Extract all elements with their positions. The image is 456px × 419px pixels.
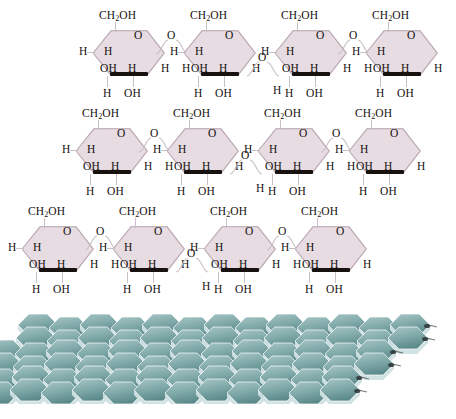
label-ch2oh: CH2OH bbox=[281, 10, 318, 23]
label-right-hydrogen: H bbox=[417, 161, 425, 173]
bond-bottom-h bbox=[127, 272, 128, 283]
label-upper-inner-hydrogen: H bbox=[306, 242, 314, 254]
bond-bottom-h bbox=[198, 76, 199, 87]
label-hydroxyl-c2: OH bbox=[191, 63, 208, 75]
label-left-hydrogen: H bbox=[261, 46, 269, 58]
label-lower-inner-hydrogen: H bbox=[202, 161, 210, 173]
label-left-hydrogen: H bbox=[170, 46, 178, 58]
bond-left-h bbox=[343, 150, 351, 151]
bond-left-h bbox=[198, 248, 206, 249]
label-upper-inner-hydrogen: H bbox=[215, 242, 223, 254]
glucose-ring: CH2OHOHHOHHHOHH bbox=[341, 106, 437, 206]
clipped-caption-strip bbox=[118, 408, 342, 419]
label-bottom-hydrogen: H bbox=[194, 88, 202, 100]
label-bottom-hydroxyl: OH bbox=[124, 88, 141, 100]
label-left-hydrogen: H bbox=[8, 242, 16, 254]
label-ch2oh: CH2OH bbox=[372, 10, 409, 23]
glucose-ring: CH2OHOHHOHHHOHH bbox=[250, 106, 346, 206]
label-ch2oh: CH2OH bbox=[99, 10, 136, 23]
label-ch2oh: CH2OH bbox=[28, 206, 65, 219]
label-glycosidic-oxygen: O bbox=[349, 30, 357, 42]
bond-bottom-h bbox=[363, 174, 364, 185]
label-upper-inner-hydrogen: H bbox=[87, 144, 95, 156]
label-left-hydrogen: H bbox=[153, 144, 161, 156]
cellulose-microfibril bbox=[0, 308, 456, 404]
label-hydroxyl-c2: OH bbox=[373, 63, 390, 75]
label-upper-inner-hydrogen: H bbox=[124, 242, 132, 254]
label-bottom-hydroxyl: OH bbox=[215, 88, 232, 100]
bond-ch2oh bbox=[371, 120, 372, 130]
label-bottom-hydroxyl: OH bbox=[397, 88, 414, 100]
label-bottom-hydroxyl: OH bbox=[235, 284, 252, 296]
label-ring-oxygen: O bbox=[63, 226, 71, 238]
label-ring-oxygen: O bbox=[299, 128, 307, 140]
label-ring-oxygen: O bbox=[154, 226, 162, 238]
label-upper-inner-hydrogen: H bbox=[33, 242, 41, 254]
label-ring-oxygen: O bbox=[245, 226, 253, 238]
bond-bottom-oh bbox=[116, 174, 117, 185]
bond-bottom-oh bbox=[315, 76, 316, 87]
bond-bottom-h bbox=[380, 76, 381, 87]
label-ring-oxygen: O bbox=[316, 30, 324, 42]
label-lower-inner-hydrogen: H bbox=[111, 161, 119, 173]
bond-bottom-oh bbox=[133, 76, 134, 87]
label-ch2oh: CH2OH bbox=[82, 108, 119, 121]
label-left-hydrogen: H bbox=[79, 46, 87, 58]
glucose-chain-row: CH2OHOHHOHHHOHHOHCH2OHOHHOHHHOHHOHCH2OHO… bbox=[14, 204, 418, 304]
label-bottom-hydrogen: H bbox=[268, 186, 276, 198]
label-bottom-hydroxyl: OH bbox=[380, 186, 397, 198]
bond-bottom-oh bbox=[244, 272, 245, 283]
label-lower-inner-hydrogen: H bbox=[384, 161, 392, 173]
clipped-caption-ink bbox=[118, 408, 342, 419]
label-right-hydrogen: H bbox=[144, 161, 152, 173]
bond-bottom-h bbox=[289, 76, 290, 87]
bond-left-h bbox=[107, 248, 115, 249]
glucose-ring: CH2OHOHHOHHHOHH bbox=[196, 204, 292, 304]
label-glycosidic-oxygen: O bbox=[150, 128, 158, 140]
label-bottom-hydrogen: H bbox=[214, 284, 222, 296]
bond-bottom-oh bbox=[224, 76, 225, 87]
label-glycosidic-oxygen: O bbox=[96, 226, 104, 238]
bond-ch2oh bbox=[226, 218, 227, 228]
bond-left-h bbox=[360, 52, 368, 53]
label-bottom-hydroxyl: OH bbox=[289, 186, 306, 198]
bond-bottom-oh bbox=[335, 272, 336, 283]
bond-ch2oh bbox=[206, 22, 207, 32]
bond-bottom-oh bbox=[153, 272, 154, 283]
label-ch2oh: CH2OH bbox=[119, 206, 156, 219]
label-ch2oh: CH2OH bbox=[173, 108, 210, 121]
bond-ch2oh bbox=[98, 120, 99, 130]
label-glycosidic-oxygen: O bbox=[167, 30, 175, 42]
bond-bottom-oh bbox=[62, 272, 63, 283]
label-bottom-hydroxyl: OH bbox=[107, 186, 124, 198]
label-hydroxyl-c2: OH bbox=[83, 161, 100, 173]
glucose-ring: CH2OHOHHOHHHOHH bbox=[85, 8, 181, 108]
label-upper-inner-hydrogen: H bbox=[286, 46, 294, 58]
label-left-hydrogen: H bbox=[352, 46, 360, 58]
bond-bottom-h bbox=[107, 76, 108, 87]
glucose-ring: CH2OHOHHOHHHOHH bbox=[358, 8, 454, 108]
label-ch2oh: CH2OH bbox=[190, 10, 227, 23]
label-hydroxyl-c2: OH bbox=[174, 161, 191, 173]
bond-bottom-oh bbox=[389, 174, 390, 185]
bond-ch2oh bbox=[388, 22, 389, 32]
glucose-chain-row: CH2OHOHHOHHHOHHOHCH2OHOHHOHHHOHHOHCH2OHO… bbox=[68, 106, 456, 206]
label-bottom-hydrogen: H bbox=[305, 284, 313, 296]
label-ch2oh: CH2OH bbox=[264, 108, 301, 121]
label-bottom-hydroxyl: OH bbox=[144, 284, 161, 296]
label-bottom-hydroxyl: OH bbox=[198, 186, 215, 198]
label-lower-inner-hydrogen: H bbox=[148, 259, 156, 271]
label-right-hydrogen: H bbox=[90, 259, 98, 271]
glucose-ring: CH2OHOHHOHHHOHH bbox=[14, 204, 110, 304]
bond-bottom-h bbox=[309, 272, 310, 283]
label-ch2oh: CH2OH bbox=[301, 206, 338, 219]
label-bottom-hydrogen: H bbox=[376, 88, 384, 100]
label-ring-oxygen: O bbox=[134, 30, 142, 42]
label-left-hydrogen: H bbox=[335, 144, 343, 156]
label-glycosidic-oxygen: O bbox=[332, 128, 340, 140]
label-lower-inner-hydrogen: H bbox=[330, 259, 338, 271]
label-bottom-hydrogen: H bbox=[86, 186, 94, 198]
bond-bottom-oh bbox=[207, 174, 208, 185]
label-lower-inner-hydrogen: H bbox=[57, 259, 65, 271]
bond-left-h bbox=[87, 52, 95, 53]
